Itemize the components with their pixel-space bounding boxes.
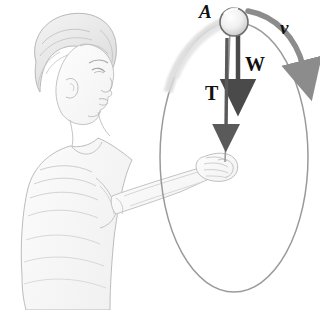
tension-arrow: [226, 38, 227, 128]
label-weight: W: [245, 54, 265, 74]
label-tension: T: [205, 83, 218, 103]
shirt-torso: [21, 138, 132, 310]
person-figure: [21, 13, 238, 310]
label-velocity: v: [280, 18, 288, 37]
illustration-svg: [0, 0, 320, 310]
label-point-a: A: [199, 2, 212, 21]
physics-diagram-canvas: A v W T: [0, 0, 320, 310]
